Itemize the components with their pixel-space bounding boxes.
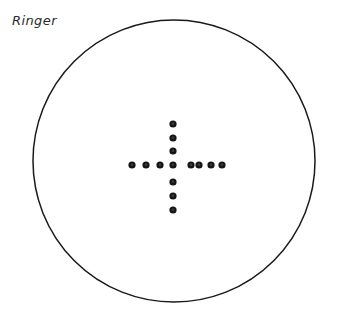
marker-dot-core bbox=[131, 163, 134, 166]
marker-dot-core bbox=[172, 122, 175, 125]
marker-dot-core bbox=[172, 149, 175, 152]
marker-dot-core bbox=[210, 163, 213, 166]
marker-dot-core bbox=[159, 163, 162, 166]
marker-dot-core bbox=[198, 163, 201, 166]
ringer-figure: Ringer bbox=[0, 0, 345, 328]
marker-dot-core bbox=[145, 163, 148, 166]
dot-cluster bbox=[128, 120, 225, 213]
ring-circle bbox=[33, 20, 315, 302]
marker-dot-core bbox=[190, 163, 193, 166]
marker-dot-core bbox=[172, 194, 175, 197]
figure-canvas bbox=[0, 0, 345, 328]
marker-dot-core bbox=[172, 136, 175, 139]
marker-dot-core bbox=[172, 180, 175, 183]
marker-dot-core bbox=[172, 208, 175, 211]
marker-dot-core bbox=[221, 163, 224, 166]
marker-dot-core bbox=[172, 163, 175, 166]
